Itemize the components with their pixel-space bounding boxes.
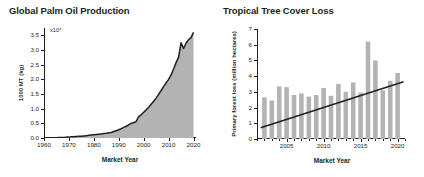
bar bbox=[388, 81, 393, 139]
y-axis-title-tree-cover-loss: Primary forest loss (million hectares) bbox=[231, 31, 237, 137]
x-tick-minor bbox=[383, 139, 384, 141]
x-tick-label: 2010 bbox=[317, 143, 331, 149]
bar bbox=[314, 95, 319, 139]
x-tick-minor bbox=[353, 139, 354, 141]
y-tick-label: 1.5 bbox=[30, 91, 39, 97]
y-tick-label: 3.0 bbox=[30, 47, 39, 53]
x-tick-label: 2005 bbox=[280, 143, 294, 149]
bar bbox=[277, 86, 282, 139]
x-tick-minor bbox=[346, 139, 347, 141]
y-tick-label: 0.5 bbox=[30, 120, 39, 126]
x-tick-label: 1960 bbox=[37, 142, 51, 148]
y-tick-label: 4 bbox=[249, 73, 252, 79]
x-tick-label: 2010 bbox=[162, 142, 176, 148]
x-tick-label: 1990 bbox=[112, 142, 126, 148]
x-axis-title-palm-oil: Market Year bbox=[102, 156, 138, 163]
y-tick-label: 2.5 bbox=[30, 62, 39, 68]
x-tick-minor bbox=[309, 139, 310, 141]
y-tick-label: 3.5 bbox=[30, 32, 39, 38]
x-tick-minor bbox=[331, 139, 332, 141]
chart-title-tree-cover-loss: Tropical Tree Cover Loss bbox=[223, 5, 334, 16]
chart-panel-tree-cover-loss: Tropical Tree Cover Loss Primary forest … bbox=[212, 0, 424, 177]
y-tick-label: 7 bbox=[249, 26, 252, 32]
bar bbox=[299, 93, 304, 139]
bar bbox=[262, 97, 267, 139]
x-axis-title-tree-cover-loss: Market Year bbox=[314, 157, 350, 164]
bar bbox=[373, 60, 378, 139]
chart-panel-palm-oil: Global Palm Oil Production x10⁴ 1000 MT … bbox=[0, 0, 212, 177]
x-tick-minor bbox=[272, 139, 273, 141]
y-tick-label: 6 bbox=[249, 42, 252, 48]
y-tick-label: 2.0 bbox=[30, 76, 39, 82]
bar bbox=[321, 88, 326, 139]
bar bbox=[270, 101, 275, 140]
y-axis-title-palm-oil: 1000 MT (kg) bbox=[18, 65, 24, 101]
bar bbox=[336, 84, 341, 139]
x-tick-minor bbox=[405, 139, 406, 141]
x-tick-minor bbox=[368, 139, 369, 141]
y-tick-label: 5 bbox=[249, 57, 252, 63]
y-tick-label: 2 bbox=[249, 104, 252, 110]
area-series-palm-oil bbox=[44, 28, 196, 138]
bar bbox=[329, 96, 334, 139]
y-tick-label: 1 bbox=[249, 120, 252, 126]
x-tick-minor bbox=[279, 139, 280, 141]
x-tick-minor bbox=[294, 139, 295, 141]
y-tick-label: 1.0 bbox=[30, 106, 39, 112]
x-tick-label: 2020 bbox=[187, 142, 201, 148]
bar-series-tree-cover-loss bbox=[257, 29, 405, 139]
x-tick-minor bbox=[390, 139, 391, 141]
bar bbox=[307, 97, 312, 139]
plot-area-palm-oil: 0.00.51.01.52.02.53.03.5 196019701980199… bbox=[44, 28, 196, 138]
x-tick-minor bbox=[316, 139, 317, 141]
chart-title-palm-oil: Global Palm Oil Production bbox=[9, 5, 129, 16]
x-tick-minor bbox=[257, 139, 258, 141]
bar bbox=[351, 82, 356, 139]
x-tick-minor bbox=[264, 139, 265, 141]
x-tick-label: 2015 bbox=[354, 143, 368, 149]
x-tick-label: 2000 bbox=[137, 142, 151, 148]
x-tick-minor bbox=[338, 139, 339, 141]
bar bbox=[358, 93, 363, 139]
x-tick-minor bbox=[375, 139, 376, 141]
plot-area-tree-cover-loss: 01234567 2005201020152020 bbox=[257, 29, 405, 139]
bar bbox=[381, 90, 386, 139]
y-tick-label: 3 bbox=[249, 89, 252, 95]
y-tick-label: 0 bbox=[249, 136, 252, 142]
bar bbox=[366, 42, 371, 139]
x-tick-label: 1980 bbox=[87, 142, 101, 148]
x-tick-minor bbox=[301, 139, 302, 141]
bar bbox=[284, 87, 289, 139]
x-tick-label: 2020 bbox=[391, 143, 405, 149]
x-tick-label: 1970 bbox=[62, 142, 76, 148]
